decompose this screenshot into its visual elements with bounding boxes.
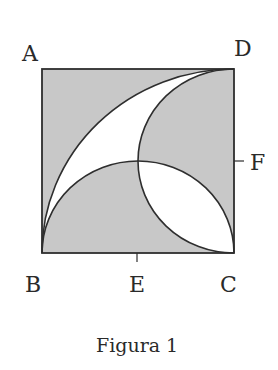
label-f: F: [250, 150, 265, 175]
label-a: A: [21, 41, 39, 66]
label-b: B: [25, 272, 41, 297]
label-d: D: [234, 36, 252, 61]
figure-caption: Figura 1: [96, 334, 178, 356]
label-c: C: [220, 272, 237, 297]
geometry-figure: A D F B E C Figura 1: [0, 0, 278, 370]
label-e: E: [129, 272, 145, 297]
